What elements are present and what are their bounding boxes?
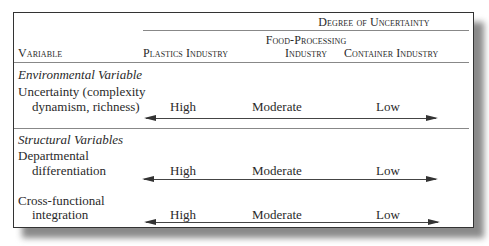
double-arrow: [144, 179, 436, 180]
row-label-line2: integration: [32, 207, 88, 223]
section-title-environmental: Environmental Variable: [18, 67, 142, 83]
cell-food: Moderate: [252, 99, 302, 115]
row-label-line2: differentiation: [32, 163, 106, 179]
cell-container: Low: [376, 207, 400, 223]
double-arrow: [146, 222, 438, 223]
arrow-right-icon: [428, 219, 440, 225]
cell-container: Low: [376, 99, 400, 115]
arrow-left-icon: [142, 176, 154, 182]
cell-container: Low: [376, 163, 400, 179]
cell-plastics: High: [170, 99, 196, 115]
header-rule: [14, 62, 469, 63]
row-label-line2: dynamism, richness): [32, 99, 140, 115]
cell-plastics: High: [170, 163, 196, 179]
spanning-header-text: Degree of Uncertainty: [318, 15, 429, 30]
arrow-left-icon: [144, 115, 156, 121]
arrow-right-icon: [426, 176, 438, 182]
col-header-plastics: Plastics Industry: [143, 46, 228, 61]
arrow-left-icon: [144, 219, 156, 225]
col-header-variable: Variable: [18, 46, 62, 61]
cell-plastics: High: [170, 207, 196, 223]
row-label-line1: Departmental: [18, 148, 89, 164]
arrow-right-icon: [426, 115, 438, 121]
col-header-container: Container Industry: [344, 46, 438, 61]
cell-food: Moderate: [252, 207, 302, 223]
col-header-food-line2: Industry: [285, 46, 327, 61]
double-arrow: [146, 118, 436, 119]
spanning-header-rule: [143, 30, 469, 31]
cell-food: Moderate: [252, 163, 302, 179]
section-rule: [14, 128, 469, 129]
section-title-structural: Structural Variables: [18, 132, 123, 148]
row-label-line1: Uncertainty (complexity: [18, 84, 145, 100]
